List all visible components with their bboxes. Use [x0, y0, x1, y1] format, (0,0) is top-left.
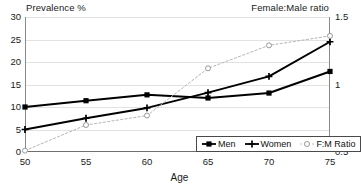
legend-item-label: F:M Ratio	[316, 139, 355, 149]
data-point-marker	[84, 123, 89, 128]
series-women	[22, 38, 334, 133]
data-point-marker	[327, 69, 332, 74]
data-point-marker	[23, 148, 28, 153]
legend-item-label: Men	[218, 139, 236, 149]
data-point-marker	[22, 104, 27, 109]
data-point-marker	[83, 115, 90, 122]
data-point-marker	[267, 43, 272, 48]
open-circle-icon	[300, 139, 314, 149]
data-point-marker	[22, 126, 29, 133]
data-point-marker	[206, 66, 211, 71]
x-axis-title: Age	[0, 172, 359, 183]
data-point-marker	[266, 90, 271, 95]
data-point-marker	[205, 89, 212, 96]
series-line	[25, 71, 330, 107]
series-line	[25, 36, 330, 151]
series-line	[25, 42, 330, 130]
legend-item-label: Women	[261, 139, 292, 149]
data-point-marker	[83, 98, 88, 103]
filled-square-icon	[202, 139, 216, 149]
plus-marker-icon	[245, 139, 259, 149]
legend-item-women[interactable]: Women	[245, 139, 292, 149]
data-point-marker	[144, 92, 149, 97]
data-point-marker	[145, 113, 150, 118]
legend-item-f-m-ratio[interactable]: F:M Ratio	[300, 139, 355, 149]
legend-item-men[interactable]: Men	[202, 139, 236, 149]
data-point-marker	[205, 95, 210, 100]
data-point-marker	[328, 33, 333, 38]
chart-legend: MenWomenF:M Ratio	[196, 136, 361, 152]
series-men	[22, 69, 332, 110]
data-point-marker	[144, 105, 151, 112]
